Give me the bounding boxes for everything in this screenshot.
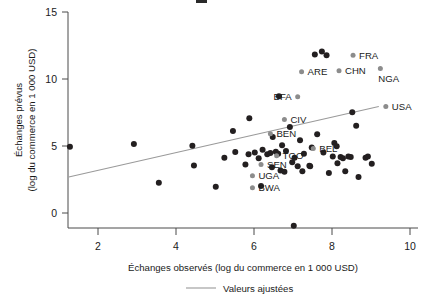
- data-point: [242, 161, 248, 167]
- point-label-civ: CIV: [290, 114, 307, 125]
- point-label-nga: NGA: [378, 73, 399, 84]
- data-point: [307, 163, 313, 169]
- data-point-ben: [268, 131, 273, 136]
- data-point: [312, 52, 318, 58]
- data-point: [334, 160, 340, 166]
- y-axis-ticks: 15 10 5 0: [45, 6, 68, 219]
- data-point-usa: [383, 104, 388, 109]
- x-tick-label-10: 10: [404, 240, 416, 252]
- data-point: [246, 151, 252, 157]
- data-point: [252, 149, 258, 155]
- data-point-fra: [351, 53, 356, 58]
- data-point: [279, 142, 285, 148]
- data-point: [267, 150, 273, 156]
- x-tick-label-8: 8: [329, 240, 335, 252]
- y-axis-title-line2: (log du commerce en 1 000 USD): [26, 49, 37, 192]
- data-point: [353, 123, 359, 129]
- data-point: [297, 137, 303, 143]
- data-point-chn: [337, 68, 342, 73]
- x-axis-title: Échanges observés (log du commerce en 1 …: [128, 262, 358, 273]
- point-label-sen: SEN: [267, 159, 287, 170]
- data-point: [291, 223, 297, 229]
- data-points-unlabeled: [67, 49, 375, 229]
- data-point: [230, 128, 236, 134]
- legend: Valeurs ajustées: [186, 283, 293, 294]
- point-label-bfa: BFA: [274, 91, 293, 102]
- data-point: [213, 184, 219, 190]
- data-point-uga: [250, 173, 255, 178]
- data-point: [67, 144, 73, 150]
- data-point: [256, 155, 262, 161]
- point-label-bel: BEL: [319, 143, 338, 154]
- point-label-chn: CHN: [345, 65, 366, 76]
- data-point-bfa: [295, 94, 300, 99]
- data-point: [299, 168, 305, 174]
- data-point-are: [299, 69, 304, 74]
- y-tick-label-15: 15: [45, 6, 57, 18]
- point-label-uga: UGA: [258, 170, 279, 181]
- data-point: [131, 141, 137, 147]
- point-label-usa: USA: [392, 101, 412, 112]
- data-point-bel: [311, 146, 316, 151]
- point-label-bwa: BWA: [258, 182, 280, 193]
- data-point: [232, 149, 238, 155]
- data-point: [356, 174, 362, 180]
- data-point: [326, 170, 332, 176]
- data-point: [189, 143, 195, 149]
- data-point: [348, 154, 354, 160]
- data-point: [330, 153, 336, 159]
- y-tick-label-5: 5: [51, 140, 57, 152]
- y-axis-title: Échanges prévus (log du commerce en 1 00…: [13, 49, 37, 192]
- point-label-are: ARE: [308, 66, 328, 77]
- x-tick-label-6: 6: [251, 240, 257, 252]
- data-point-sen: [259, 162, 264, 167]
- data-point: [365, 153, 371, 159]
- x-tick-label-4: 4: [173, 240, 179, 252]
- legend-label-fitted-values: Valeurs ajustées: [223, 283, 293, 294]
- y-axis-title-line1: Échanges prévus: [13, 83, 24, 157]
- data-point: [246, 115, 252, 121]
- data-point: [324, 52, 330, 58]
- data-point: [314, 131, 320, 137]
- data-point-nga: [378, 66, 383, 71]
- point-label-fra: FRA: [359, 50, 379, 61]
- data-point-tgo: [274, 153, 279, 158]
- point-label-ben: BEN: [276, 128, 296, 139]
- x-tick-label-2: 2: [95, 240, 101, 252]
- data-point: [369, 161, 375, 167]
- data-point: [340, 155, 346, 161]
- data-point-bwa: [250, 185, 255, 190]
- data-point: [349, 109, 355, 115]
- y-tick-label-10: 10: [45, 73, 57, 85]
- data-point-civ: [282, 117, 287, 122]
- data-point: [260, 147, 266, 153]
- x-axis-ticks: 2 4 6 8 10: [95, 228, 416, 252]
- y-tick-label-0: 0: [51, 207, 57, 219]
- data-point: [191, 162, 197, 168]
- data-point: [221, 155, 227, 161]
- data-point: [342, 168, 348, 174]
- data-point: [295, 163, 301, 169]
- chart-canvas: 15 10 5 0 2 4 6 8 10 Échanges prévus (lo…: [0, 0, 430, 304]
- scatter-plot-figure: 15 10 5 0 2 4 6 8 10 Échanges prévus (lo…: [0, 0, 430, 304]
- data-point: [156, 180, 162, 186]
- cropped-title-artifact: [196, 0, 207, 3]
